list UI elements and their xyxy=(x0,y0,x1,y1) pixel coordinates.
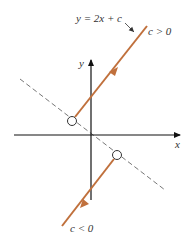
lower-line-label: c < 0 xyxy=(70,222,94,234)
upper-line-label: c > 0 xyxy=(148,25,172,37)
upper-open-circle xyxy=(68,117,77,126)
lower-open-circle xyxy=(113,151,122,160)
y-axis-label: y xyxy=(78,57,84,69)
equation-pointer-arrow xyxy=(125,23,134,32)
x-axis-label: x xyxy=(174,138,180,150)
diagram-canvas: y = 2x + c c > 0 c < 0 x y xyxy=(0,0,190,241)
lower-line-c-negative xyxy=(62,159,114,226)
equation-label: y = 2x + c xyxy=(75,12,122,24)
